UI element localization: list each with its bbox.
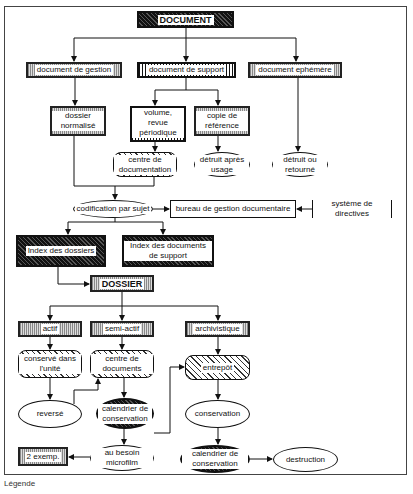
node-index-des-documents-de-support: Index des documents de support bbox=[122, 235, 214, 267]
node-centre-de-documents: centre de documents bbox=[90, 350, 154, 378]
node-centre-de-documentation: centre de documentation bbox=[113, 152, 177, 177]
node-entrepot: entrepôt bbox=[185, 355, 250, 380]
node-conserve-dans-unite: conservé dans l'unité bbox=[18, 350, 82, 378]
node-document-de-support: document de support bbox=[137, 62, 236, 78]
node-semi-actif: semi-actif bbox=[90, 321, 154, 337]
node-calendrier-de-conservation-2: calendrier de conservation bbox=[180, 445, 250, 473]
node-actif: actif bbox=[18, 321, 82, 337]
legend-label: Légende bbox=[4, 479, 35, 488]
node-detruit-ou-retourne: détruit ou retourné bbox=[272, 152, 328, 177]
node-calendrier-de-conservation-1: calendrier de conservation bbox=[96, 398, 154, 429]
node-archivistique: archivistique bbox=[185, 321, 250, 337]
node-au-besoin-microfilm: au besoin microfilm bbox=[90, 445, 154, 471]
node-document-ephemere: document ephémère bbox=[248, 62, 342, 78]
node-volume-revue-periodique: volume, revue périodique bbox=[130, 106, 186, 142]
node-reverse: reversé bbox=[18, 400, 82, 428]
node-2-exemplaires: 2 exemp. bbox=[18, 447, 68, 466]
node-dossier: DOSSIER bbox=[90, 275, 154, 292]
node-dossier-normalise: dossier normalisé bbox=[50, 106, 106, 136]
node-codification-par-sujet: codification par sujet bbox=[73, 200, 153, 218]
node-document-de-gestion: document de gestion bbox=[26, 62, 122, 78]
node-index-des-dossiers: Index des dossiers bbox=[16, 235, 106, 267]
node-document: DOCUMENT bbox=[137, 11, 234, 28]
node-conservation: conservation bbox=[185, 400, 250, 428]
node-systeme-de-directives: système de directives bbox=[312, 200, 392, 218]
node-copie-de-reference: copie de référence bbox=[194, 106, 250, 136]
node-detruit-apres-usage: détruit après usage bbox=[194, 152, 250, 177]
node-destruction: destruction bbox=[273, 447, 338, 472]
node-bureau-de-gestion-documentaire: bureau de gestion documentaire bbox=[170, 200, 296, 218]
